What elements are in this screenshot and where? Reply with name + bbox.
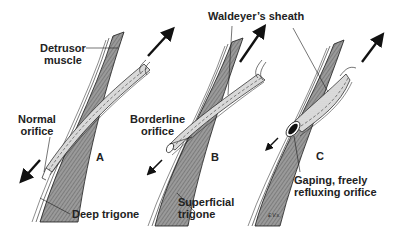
panel-a-outflow-arrow-icon [148,32,170,56]
panel-c-outflow-arrow-icon [362,38,380,62]
label-normal-orifice: Normal orifice [18,113,56,137]
label-detrusor-muscle: Detrusor muscle [40,42,86,66]
ureterovesical-junction-diagram: Detrusor muscle Normal orifice Borderlin… [0,0,400,235]
label-gaping-orifice: Gaping, freely refluxing orifice [294,174,377,198]
panel-b-inflow-arrow-icon [150,160,162,172]
panel-c-detrusor-muscle [255,40,344,226]
label-borderline-orifice: Borderline orifice [130,113,185,137]
panel-a-inflow-arrow-icon [24,160,40,178]
panel-c-inflow-arrow-icon [268,138,278,148]
label-superficial-trigone: Superficial trigone [178,196,234,220]
panel-letter-a: A [96,151,104,163]
panel-letter-b: B [211,151,219,163]
label-deep-trigone: Deep trigone [72,208,139,220]
artist-signature: £.V.s. [268,209,280,221]
panel-b-outflow-arrow-icon [240,30,262,62]
panel-letter-c: C [316,150,324,162]
label-waldeyers-sheath: Waldeyer’s sheath [208,10,304,22]
